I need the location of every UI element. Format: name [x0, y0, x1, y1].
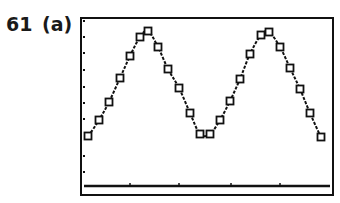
plot-frame [81, 18, 333, 195]
square-marker [145, 28, 152, 35]
data-points [85, 28, 325, 141]
square-marker [318, 134, 325, 141]
y-axis-tick-dots [83, 20, 85, 173]
square-marker [237, 76, 244, 83]
square-marker [297, 86, 304, 93]
square-marker [176, 85, 183, 92]
square-marker [227, 98, 234, 105]
square-marker [165, 66, 172, 73]
square-marker [207, 131, 214, 138]
square-marker [187, 110, 194, 117]
square-marker [96, 117, 103, 124]
square-marker [155, 44, 162, 51]
square-marker [277, 44, 284, 51]
square-marker [117, 75, 124, 82]
square-marker [307, 110, 314, 117]
x-axis [84, 183, 330, 186]
square-marker [217, 117, 224, 124]
square-marker [137, 34, 144, 41]
fitted-sine-curve [88, 31, 321, 137]
square-marker [266, 29, 273, 36]
square-marker [287, 65, 294, 72]
square-marker [197, 131, 204, 138]
square-marker [258, 32, 265, 39]
square-marker [127, 53, 134, 60]
square-marker [85, 133, 92, 140]
calculator-plot [0, 0, 340, 203]
square-marker [247, 51, 254, 58]
square-marker [106, 99, 113, 106]
